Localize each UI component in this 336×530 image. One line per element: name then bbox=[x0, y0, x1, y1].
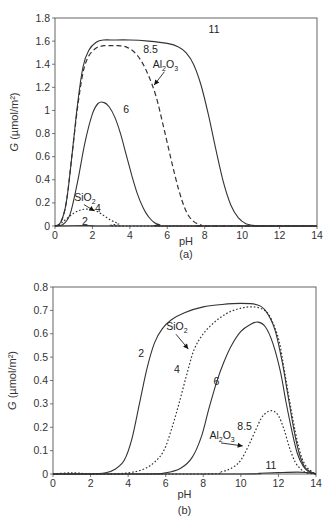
annotation-label: 4 bbox=[174, 363, 180, 375]
figure: 0246810121400.20.40.60.811.21.41.61.8pHG… bbox=[0, 0, 336, 530]
annotation-label: 8.5 bbox=[237, 420, 252, 432]
annotation-text: O bbox=[84, 191, 92, 203]
y-tick-label: 0.6 bbox=[35, 150, 50, 162]
x-tick-label: 0 bbox=[52, 229, 58, 241]
x-tick-label: 4 bbox=[125, 477, 131, 489]
series-line-8-5 bbox=[53, 411, 316, 474]
annotation-subscript: 3 bbox=[174, 65, 178, 72]
y-tick-label: 0.8 bbox=[33, 281, 48, 293]
x-tick-label: 2 bbox=[88, 477, 94, 489]
x-axis-label: pH bbox=[177, 488, 191, 500]
annotation-text: Al bbox=[209, 429, 218, 441]
y-tick-label: 0.8 bbox=[35, 127, 50, 139]
y-axis-label-units: (µmol/m²) bbox=[6, 351, 18, 401]
y-tick-label: 0.5 bbox=[33, 351, 48, 363]
y-axis-label: G (µmol/m²) bbox=[8, 93, 20, 152]
annotation-label: Al2O3 bbox=[209, 429, 234, 443]
annotation-text: Si bbox=[74, 191, 83, 203]
x-tick-label: 4 bbox=[127, 229, 133, 241]
x-tick-label: 14 bbox=[311, 229, 323, 241]
annotation-text: O bbox=[223, 429, 231, 441]
annotation-label: 4 bbox=[95, 202, 101, 214]
figure-caption: (b) bbox=[178, 504, 191, 516]
annotation-label: 11 bbox=[265, 459, 276, 471]
x-axis-label: pH bbox=[179, 235, 193, 247]
x-tick-label: 8 bbox=[200, 477, 206, 489]
x-tick-label: 8 bbox=[202, 229, 208, 241]
x-tick-label: 14 bbox=[310, 477, 322, 489]
y-tick-label: 1.2 bbox=[35, 81, 50, 93]
x-tick-label: 6 bbox=[163, 477, 169, 489]
x-tick-label: 2 bbox=[90, 229, 96, 241]
x-tick-label: 0 bbox=[50, 477, 56, 489]
y-tick-label: 0.7 bbox=[33, 304, 48, 316]
y-tick-label: 0.4 bbox=[33, 374, 48, 386]
chart-b-gel-adsorption-vs-ph: 0246810121400.10.20.30.40.50.60.70.8pHG … bbox=[6, 281, 322, 517]
annotation-label: 6 bbox=[123, 103, 129, 115]
y-tick-label: 1 bbox=[44, 104, 50, 116]
x-tick-label: 12 bbox=[273, 477, 285, 489]
y-tick-label: 0 bbox=[44, 220, 50, 232]
x-tick-label: 10 bbox=[235, 477, 247, 489]
annotation-label: SiO2 bbox=[74, 191, 96, 205]
x-tick-label: 6 bbox=[164, 229, 170, 241]
x-tick-label: 12 bbox=[274, 229, 286, 241]
chart-a-gel-adsorption-vs-ph: 0246810121400.20.40.60.811.21.41.61.8pHG… bbox=[8, 12, 323, 261]
arrowhead-icon bbox=[154, 80, 159, 86]
x-tick-label: 10 bbox=[236, 229, 248, 241]
y-tick-label: 1.6 bbox=[35, 35, 50, 47]
y-tick-label: 1.4 bbox=[35, 58, 50, 70]
annotation-subscript: 2 bbox=[184, 327, 188, 334]
y-tick-label: 0.4 bbox=[35, 173, 50, 185]
annotation-label: 2 bbox=[82, 215, 88, 227]
annotation-label: 6 bbox=[214, 375, 220, 387]
annotation-label: 11 bbox=[209, 23, 220, 35]
annotation-label: SiO2 bbox=[166, 320, 188, 334]
figure-caption: (a) bbox=[179, 248, 192, 260]
y-axis-label: G (µmol/m²) bbox=[6, 351, 18, 410]
annotation-label: 2 bbox=[138, 347, 144, 359]
y-tick-label: 0.2 bbox=[33, 421, 48, 433]
annotation-label: Al2O3 bbox=[153, 58, 178, 72]
y-tick-label: 0.3 bbox=[33, 397, 48, 409]
annotation-text: O bbox=[166, 58, 174, 70]
annotation-text: Si bbox=[166, 320, 175, 332]
annotation-text: O bbox=[176, 320, 184, 332]
y-tick-label: 0 bbox=[42, 468, 48, 480]
y-tick-label: 1.8 bbox=[35, 12, 50, 24]
y-axis-label-units: (µmol/m²) bbox=[8, 93, 20, 143]
y-tick-label: 0.1 bbox=[33, 444, 48, 456]
annotation-text: Al bbox=[153, 58, 162, 70]
annotation-label: 8.5 bbox=[143, 43, 158, 55]
annotation-subscript: 3 bbox=[231, 436, 235, 443]
y-tick-label: 0.6 bbox=[33, 327, 48, 339]
arrowhead-icon bbox=[237, 443, 242, 448]
y-tick-label: 0.2 bbox=[35, 196, 50, 208]
